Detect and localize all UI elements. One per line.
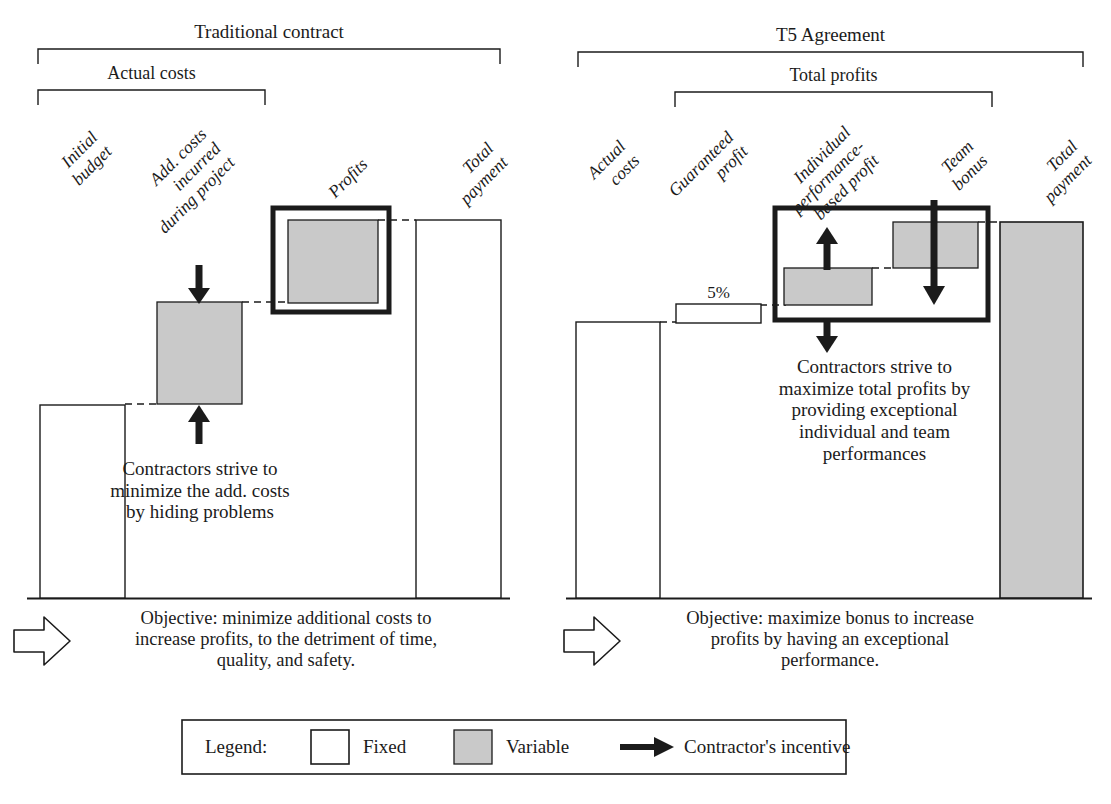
incentive-arrow-up-individual	[816, 227, 838, 270]
incentive-arrow-up-left	[188, 405, 210, 444]
diagram-canvas: Traditional contract Actual costs Initia…	[0, 0, 1111, 804]
legend-title: Legend:	[205, 736, 267, 758]
objective-left: Objective: minimize additional costs to …	[76, 608, 496, 671]
data-label-guaranteed-profit: 5%	[676, 283, 761, 302]
bar-individual-performance-profit	[784, 268, 872, 305]
bracket-traditional-contract	[38, 49, 500, 64]
incentive-arrow-down-total-profits	[816, 318, 838, 353]
bar-guaranteed-profit	[676, 304, 761, 323]
right-subbracket-label: Total profits	[675, 65, 992, 86]
annotation-right: Contractors strive to maximize total pro…	[752, 356, 997, 464]
right-panel-title: T5 Agreement	[578, 24, 1083, 46]
bar-total-payment-right	[1000, 222, 1083, 598]
legend-label-fixed: Fixed	[363, 736, 406, 758]
bar-additional-costs	[157, 302, 242, 404]
objective-arrow-left	[14, 617, 70, 665]
legend-label-variable: Variable	[506, 736, 569, 758]
bar-total-payment-left	[416, 220, 501, 598]
incentive-arrow-down-left	[188, 265, 210, 304]
left-panel-title: Traditional contract	[38, 21, 500, 43]
bracket-actual-costs-left	[38, 90, 265, 105]
objective-right: Objective: maximize bonus to increase pr…	[630, 608, 1030, 671]
bracket-total-profits	[675, 92, 992, 107]
variable-swatch	[454, 730, 492, 764]
left-subbracket-label: Actual costs	[38, 63, 265, 84]
legend-label-incentive: Contractor's incentive	[684, 736, 850, 758]
bar-actual-costs-right	[576, 322, 660, 598]
objective-arrow-right	[564, 617, 620, 665]
fixed-swatch	[311, 730, 349, 764]
annotation-left: Contractors strive to minimize the add. …	[55, 458, 345, 523]
